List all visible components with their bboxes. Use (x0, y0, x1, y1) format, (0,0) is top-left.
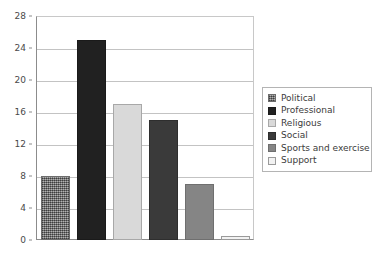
legend-swatch-icon (268, 94, 276, 102)
legend-item[interactable]: Sports and exercise (268, 142, 365, 154)
bar (77, 40, 106, 240)
bar (185, 184, 214, 240)
y-axis-tick-label: 28 (15, 12, 26, 21)
legend-swatch-icon (268, 144, 276, 152)
y-axis-tick-label: 0 (20, 236, 26, 245)
legend-item[interactable]: Support (268, 155, 365, 167)
legend-item-label: Religious (281, 118, 322, 129)
y-axis-tick-mark (29, 144, 32, 145)
legend-item[interactable]: Social (268, 130, 365, 142)
y-axis-tick-label: 20 (15, 76, 26, 85)
bar (221, 236, 250, 240)
y-axis-tick-label: 8 (20, 172, 26, 181)
bar (149, 120, 178, 240)
y-axis-tick-label: 12 (15, 140, 26, 149)
legend-swatch-icon (268, 107, 276, 115)
legend-item-label: Political (281, 93, 316, 104)
y-axis-tick-mark (29, 80, 32, 81)
legend-item-label: Support (281, 155, 317, 166)
legend-item-label: Professional (281, 105, 335, 116)
y-axis-tick-label: 4 (20, 204, 26, 213)
legend-swatch-icon (268, 119, 276, 127)
y-axis-tick-mark (29, 48, 32, 49)
y-axis: 0481216202428 (0, 16, 32, 240)
legend-item-label: Sports and exercise (281, 143, 370, 154)
bar (113, 104, 142, 240)
y-axis-tick-label: 24 (15, 44, 26, 53)
legend-swatch-icon (268, 132, 276, 140)
bar (41, 176, 70, 240)
legend: PoliticalProfessionalReligiousSocialSpor… (262, 87, 372, 172)
legend-item[interactable]: Political (268, 92, 365, 104)
legend-item[interactable]: Professional (268, 105, 365, 117)
y-axis-tick-label: 16 (15, 108, 26, 117)
y-axis-tick-mark (29, 176, 32, 177)
legend-item[interactable]: Religious (268, 117, 365, 129)
y-axis-tick-mark (29, 240, 32, 241)
bar-chart: 0481216202428 PoliticalProfessionalRelig… (0, 0, 379, 254)
y-axis-tick-mark (29, 208, 32, 209)
legend-swatch-icon (268, 157, 276, 165)
y-axis-tick-mark (29, 112, 32, 113)
bars-layer (37, 16, 253, 240)
y-axis-tick-mark (29, 16, 32, 17)
legend-item-label: Social (281, 130, 308, 141)
